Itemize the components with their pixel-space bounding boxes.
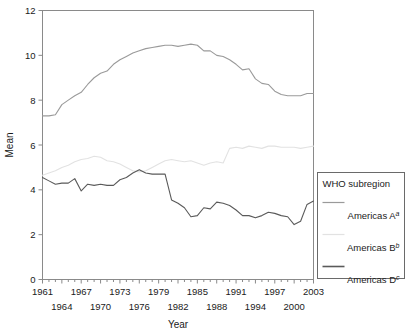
line-chart: 024681012Mean196119641967197019731976197… <box>0 0 408 332</box>
x-tick-label-1973: 1973 <box>109 286 130 297</box>
legend-title: WHO subregion <box>323 178 391 189</box>
legend-superscript-a: a <box>396 209 400 216</box>
x-tick-label-2003: 2003 <box>303 286 324 297</box>
x-tick-label-1997: 1997 <box>264 286 285 297</box>
x-axis-title: Year <box>168 319 189 330</box>
legend-superscript-b: b <box>396 241 400 248</box>
y-tick-label-8: 8 <box>30 95 35 106</box>
legend-label-americas-b[interactable]: Americas Bb <box>347 241 400 253</box>
x-tick-label-2000: 2000 <box>284 301 305 312</box>
chart-container: 024681012Mean196119641967197019731976197… <box>0 0 408 332</box>
plot-frame <box>43 11 314 280</box>
y-tick-label-4: 4 <box>30 184 35 195</box>
x-tick-label-1994: 1994 <box>245 301 266 312</box>
x-tick-label-1982: 1982 <box>167 301 188 312</box>
y-tick-label-2: 2 <box>30 229 35 240</box>
y-tick-label-10: 10 <box>25 50 36 61</box>
x-tick-label-1985: 1985 <box>187 286 208 297</box>
y-tick-label-6: 6 <box>30 140 35 151</box>
x-tick-label-1964: 1964 <box>51 301 72 312</box>
x-tick-label-1988: 1988 <box>206 301 227 312</box>
y-tick-label-12: 12 <box>25 5 36 16</box>
x-tick-label-1976: 1976 <box>129 301 150 312</box>
y-tick-label-0: 0 <box>30 274 35 285</box>
x-tick-label-1961: 1961 <box>32 286 53 297</box>
x-tick-label-1967: 1967 <box>71 286 92 297</box>
x-tick-label-1970: 1970 <box>90 301 111 312</box>
y-axis-title: Mean <box>4 132 15 157</box>
x-tick-label-1979: 1979 <box>148 286 169 297</box>
legend-superscript-c: c <box>396 273 400 280</box>
legend-label-americas-d[interactable]: Americas Dc <box>347 273 400 285</box>
legend-label-americas-a[interactable]: Americas Aa <box>348 209 400 221</box>
x-tick-label-1991: 1991 <box>226 286 247 297</box>
